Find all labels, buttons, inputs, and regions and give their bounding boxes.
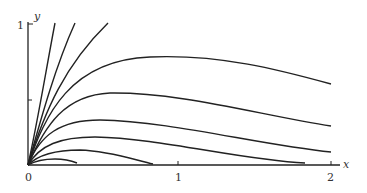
x-tick-label-1: 1 (175, 171, 182, 184)
chart: 0 1 2 1 x y (0, 0, 367, 193)
x-tick-label-0: 0 (25, 171, 32, 184)
curve-4 (28, 57, 331, 165)
curve-8 (28, 150, 153, 165)
x-axis-label: x (343, 158, 350, 171)
y-axis-label: y (33, 10, 41, 23)
curve-5 (28, 93, 331, 165)
curve-6 (28, 120, 331, 165)
x-tick-label-2: 2 (327, 171, 334, 184)
y-tick-label-1: 1 (17, 19, 24, 32)
